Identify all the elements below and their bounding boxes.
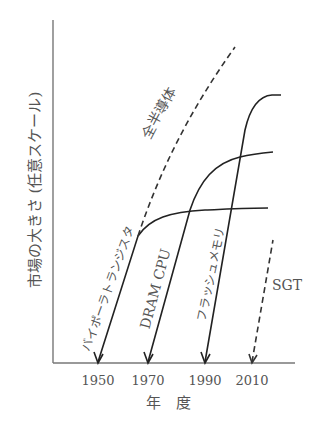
sgt-label: SGT (272, 277, 303, 293)
x-tick-1990: 1990 (188, 373, 221, 388)
sgt-curve (252, 240, 273, 362)
x-tick-1970: 1970 (131, 373, 164, 388)
all-semiconductor-label: 全半導体 (138, 84, 178, 141)
x-tick-2010: 2010 (235, 373, 268, 388)
arrow-icon (94, 352, 103, 363)
x-tick-1950: 1950 (81, 373, 114, 388)
x-axis-title: 年 度 (146, 394, 191, 412)
flash-label: フラッシュメモリ (194, 226, 228, 323)
bipolar-label: バイポーラトランジスタ (79, 224, 137, 353)
chart: 1950 1970 1990 2010 年 度 市場の大きさ (任意スケール) … (0, 0, 325, 434)
y-axis-title: 市場の大きさ (任意スケール) (26, 92, 44, 288)
all-semiconductor-curve (138, 47, 235, 236)
